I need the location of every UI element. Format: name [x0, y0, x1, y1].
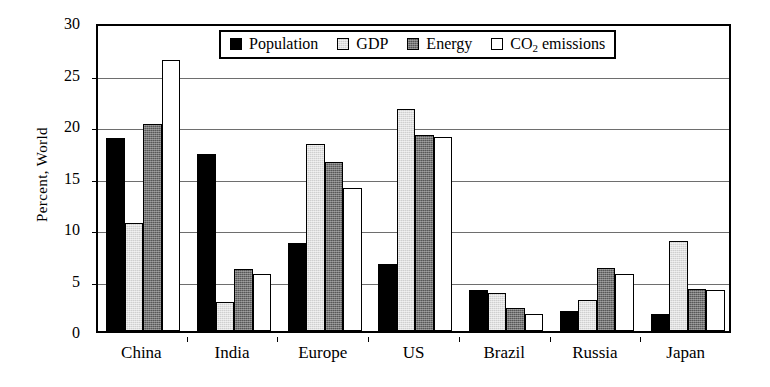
plot-inner [98, 26, 729, 331]
bar [615, 274, 634, 331]
legend-swatch-icon [337, 38, 349, 50]
bars-layer [98, 26, 729, 331]
x-axis-tick-labels: ChinaIndiaEuropeUSBrazilRussiaJapan [96, 337, 731, 377]
legend-swatch-icon [491, 38, 503, 50]
bar [325, 162, 344, 331]
bar-chart: Percent, World 051015202530 ChinaIndiaEu… [0, 0, 770, 387]
bar-group [189, 26, 280, 331]
legend-item: Energy [407, 36, 472, 52]
bar-group [279, 26, 370, 331]
y-axis-tick-mark [92, 284, 98, 285]
y-axis-tick-mark [92, 129, 98, 130]
legend-swatch-icon [407, 38, 419, 50]
legend-swatch-icon [230, 38, 242, 50]
bar [378, 264, 397, 331]
x-axis-tick-label: Russia [572, 343, 617, 363]
bar-group [461, 26, 552, 331]
bar [234, 269, 253, 331]
bar-group [98, 26, 189, 331]
bar [143, 124, 162, 331]
bar [669, 241, 688, 331]
x-axis-tick-mark [459, 337, 460, 342]
y-axis-tick-label: 30 [64, 16, 80, 32]
bar [397, 109, 416, 331]
x-axis-tick-label: Brazil [483, 343, 525, 363]
bar [688, 289, 707, 331]
y-axis-tick-label: 20 [64, 119, 80, 135]
legend-label: CO2 emissions [510, 36, 605, 52]
legend-label: GDP [356, 36, 388, 52]
bar [469, 290, 488, 331]
bar [525, 314, 544, 332]
bar [560, 311, 579, 331]
plot-area [96, 24, 731, 333]
bar [597, 268, 616, 331]
bar [706, 290, 725, 331]
legend-item: Population [230, 36, 318, 52]
bar [506, 308, 525, 331]
x-axis-tick-label: Europe [298, 343, 347, 363]
legend-label: Population [249, 36, 318, 52]
bar [578, 300, 597, 331]
bar [216, 302, 235, 331]
bar-group [370, 26, 461, 331]
y-axis-tick-mark [92, 78, 98, 79]
bar-group [642, 26, 733, 331]
bar [434, 137, 453, 331]
bar [343, 188, 362, 331]
bar [162, 60, 181, 331]
legend-label: Energy [426, 36, 472, 52]
bar [197, 154, 216, 331]
bar [306, 144, 325, 331]
x-axis-tick-mark [277, 337, 278, 342]
y-axis-tick-mark [92, 181, 98, 182]
x-axis-tick-label: Japan [666, 343, 705, 363]
x-axis-tick-mark [640, 337, 641, 342]
x-axis-tick-mark [368, 337, 369, 342]
y-axis-tick-label: 5 [72, 274, 80, 290]
bar [125, 223, 144, 331]
bar [488, 293, 507, 331]
y-axis-tick-label: 10 [64, 222, 80, 238]
y-axis-tick-labels: 051015202530 [0, 0, 88, 387]
y-axis-tick-label: 25 [64, 68, 80, 84]
x-axis-tick-label: China [121, 343, 162, 363]
x-axis-tick-mark [550, 337, 551, 342]
bar [288, 243, 307, 331]
x-axis-tick-mark [187, 337, 188, 342]
x-axis-tick-label: India [215, 343, 250, 363]
y-axis-tick-mark [92, 232, 98, 233]
bar [106, 138, 125, 331]
legend-item: GDP [337, 36, 388, 52]
bar [415, 135, 434, 331]
y-axis-tick-label: 0 [72, 325, 80, 341]
bar [651, 314, 670, 332]
x-axis-tick-label: US [403, 343, 425, 363]
legend-item: CO2 emissions [491, 36, 605, 52]
chart-legend: PopulationGDPEnergyCO2 emissions [219, 30, 616, 59]
bar [253, 274, 272, 331]
y-axis-tick-label: 15 [64, 171, 80, 187]
bar-group [552, 26, 643, 331]
